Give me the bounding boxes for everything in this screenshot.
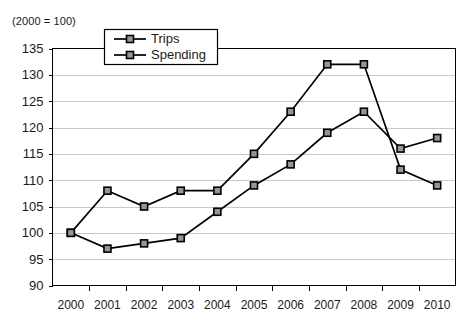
x-axis-tick-label: 2009 [387,298,414,312]
data-point-marker: Trips 2002: 98 [141,240,148,247]
data-point-marker: Trips 2003: 99 [177,235,184,242]
data-point-marker: Trips 2006: 113 [287,161,294,168]
y-axis-tick-label: 135 [22,41,44,56]
chart-container: (2000 = 100) 909510010511011512012513013… [0,0,473,323]
data-point-marker: Trips 2008: 123 [360,108,367,115]
x-axis-tick-label: 2000 [57,298,84,312]
plot-area-border [53,49,456,286]
y-axis-tick-label: 115 [23,146,44,161]
data-point-marker: Spending 2006: 123 [287,108,294,115]
x-axis-tick-label: 2003 [167,298,194,312]
y-axis-tick-label: 100 [22,225,44,240]
chart-legend: TripsSpending [105,30,218,65]
x-axis-tick-label: 2004 [204,298,231,312]
data-point-marker: Spending 2005: 115 [251,150,258,157]
data-point-marker: Spending 2008: 132 [360,61,367,68]
legend-label: Spending [151,47,206,62]
data-point-marker: Spending 2003: 108 [177,187,184,194]
legend-label: Trips [151,31,180,46]
data-point-marker: Trips 2001: 97 [104,245,111,252]
y-axis-tick-labels: 9095100105110115120125130135 [22,41,53,293]
data-point-marker: Spending 2004: 108 [214,187,221,194]
data-point-marker: Trips 2007: 119 [324,129,331,136]
x-axis-tick-label: 2008 [351,298,378,312]
y-axis-tick-label: 95 [29,252,43,267]
y-axis-tick-label: 90 [29,278,43,293]
x-axis-tick-label: 2007 [314,298,341,312]
data-point-marker: Trips 2009: 116 [397,145,404,152]
gridlines [53,76,456,260]
x-axis-tick-label: 2001 [94,298,121,312]
data-point-marker: Trips 2004: 104 [214,208,221,215]
legend-marker-sample [127,36,134,43]
y-axis-tick-label: 125 [22,94,44,109]
data-series-group: Trips 2000: 100Trips 2001: 97Trips 2002:… [67,61,440,252]
line-chart-plot: 9095100105110115120125130135 20002001200… [0,0,473,323]
x-axis-tick-label: 2002 [131,298,158,312]
data-point-marker: Spending 2001: 108 [104,187,111,194]
x-axis-tick-label: 2005 [241,298,268,312]
x-axis-tick-label: 2006 [277,298,304,312]
y-axis-tick-label: 130 [22,67,44,82]
data-point-marker: Trips 2010: 118 [434,135,441,142]
data-point-marker: Spending 2010: 109 [434,182,441,189]
y-axis-tick-label: 105 [22,199,44,214]
y-axis-tick-label: 110 [23,173,44,188]
y-axis-tick-label: 120 [22,120,44,135]
data-point-marker: Trips 2005: 109 [251,182,258,189]
x-axis-tick-labels: 2000200120022003200420052006200720082009… [57,298,450,312]
data-point-marker: Spending 2000: 100 [67,229,74,236]
data-point-marker: Spending 2002: 105 [141,203,148,210]
data-point-marker: Spending 2007: 132 [324,61,331,68]
series-spending: Spending 2000: 100Spending 2001: 108Spen… [67,61,440,237]
legend-marker-sample [127,52,134,59]
data-point-marker: Spending 2009: 112 [397,166,404,173]
x-axis-tick-label: 2010 [424,298,451,312]
